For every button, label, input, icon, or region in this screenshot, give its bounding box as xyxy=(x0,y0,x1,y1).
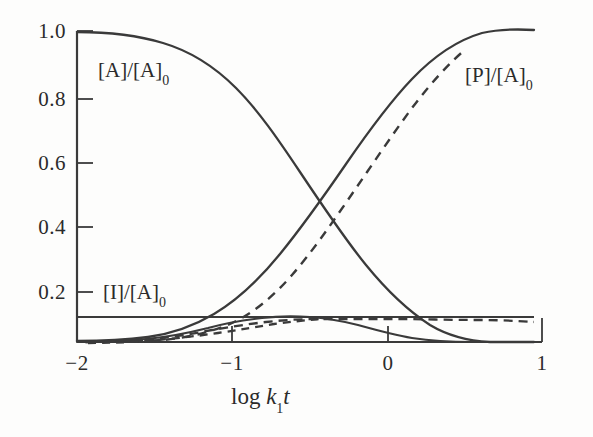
y-tick-label-5: 0.2 xyxy=(4,280,66,305)
curve-label-i-text: [I]/[A] xyxy=(103,280,159,304)
x-tick-label-4: 1 xyxy=(520,351,564,376)
curve-label-p: [P]/[A]0 xyxy=(465,63,533,91)
x-axis-title: log k1t xyxy=(231,384,290,414)
x-tick-label-2: −1 xyxy=(210,351,254,376)
curve-label-i: [I]/[A]0 xyxy=(103,280,166,308)
curve-label-i-subscript: 0 xyxy=(159,295,166,310)
x-tick-marks xyxy=(232,318,542,342)
curve-label-a-text: [A]/[A] xyxy=(98,58,162,82)
x-axis-title-k: k xyxy=(266,384,276,409)
x-tick-label-3: 0 xyxy=(366,351,410,376)
y-tick-label-4: 0.4 xyxy=(4,215,66,240)
curve-label-a: [A]/[A]0 xyxy=(98,58,169,86)
curve-label-p-subscript: 0 xyxy=(526,78,533,93)
y-tick-label-1: 1.0 xyxy=(4,19,66,44)
curve-label-a-subscript: 0 xyxy=(162,73,169,88)
y-tick-marks xyxy=(77,31,93,292)
x-tick-label-1: −2 xyxy=(55,351,99,376)
y-tick-label-3: 0.6 xyxy=(4,151,66,176)
x-axis-title-k-subscript: 1 xyxy=(276,401,283,416)
x-axis-title-log: log xyxy=(231,384,266,409)
figure-canvas: 1.0 0.8 0.6 0.4 0.2 −2 −1 0 1 [A]/[A]0 [… xyxy=(0,0,593,437)
y-tick-label-2: 0.8 xyxy=(4,87,66,112)
x-axis-title-t: t xyxy=(283,384,289,409)
curve-label-p-text: [P]/[A] xyxy=(465,63,526,87)
